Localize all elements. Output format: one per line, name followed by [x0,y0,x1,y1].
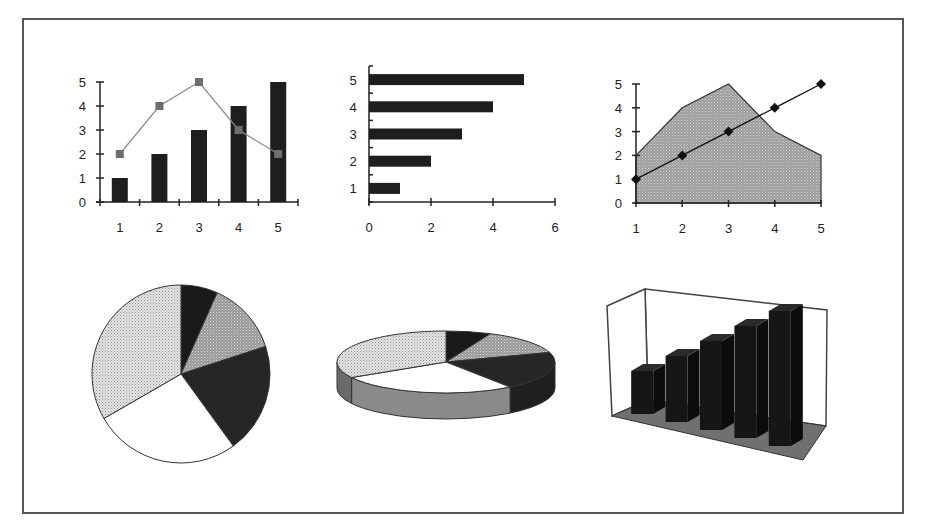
chart-gallery-canvas: 01234512345 123450246 01234512345 [0,0,926,531]
horizontal-bar [369,183,400,194]
y-tick-label: 5 [79,75,86,90]
square-marker [155,102,163,110]
square-marker [235,126,243,134]
y-tick-label: 4 [79,99,86,114]
column-3d-front [631,371,653,414]
column-3d-side [688,349,700,422]
x-tick-label: 5 [275,220,282,235]
square-marker [195,78,203,86]
column-3d-side [653,364,665,414]
column-3d-side [722,334,734,430]
square-marker [116,150,124,158]
y-tick-label: 1 [615,172,622,187]
pie-chart-3d [337,331,555,419]
x-tick-label: 1 [632,221,639,236]
x-tick-label: 4 [235,220,242,235]
y-tick-label: 3 [79,123,86,138]
y-tick-label: 4 [615,101,622,116]
y-tick-label: 0 [615,196,622,211]
y-tick-label: 2 [349,154,356,169]
column-3d-side [791,304,803,446]
diamond-marker [816,79,826,89]
column-bar [112,178,128,202]
column-bar [270,82,286,202]
x-tick-label: 3 [195,220,202,235]
combo-column-line-chart: 01234512345 [79,75,298,235]
column-3d-side [756,319,768,438]
diamond-marker [770,103,780,113]
x-tick-label: 6 [551,220,558,235]
y-tick-label: 3 [615,125,622,140]
x-tick-label: 0 [365,220,372,235]
column-bar [191,130,207,202]
x-tick-label: 2 [679,221,686,236]
column-bar [151,154,167,202]
column-3d-front [700,341,722,430]
column-3d-front [666,356,688,422]
y-tick-label: 1 [349,181,356,196]
square-marker [274,150,282,158]
area-line-chart: 01234512345 [615,77,826,236]
horizontal-bar-chart: 123450246 [349,66,558,235]
x-tick-label: 2 [156,220,163,235]
y-tick-label: 5 [349,73,356,88]
area-series [636,84,821,203]
pie-chart-2d [92,285,270,463]
y-tick-label: 3 [349,127,356,142]
horizontal-bar [369,129,462,140]
column-bar [231,106,247,202]
x-tick-label: 4 [771,221,778,236]
y-tick-label: 1 [79,171,86,186]
horizontal-bar [369,74,524,85]
y-tick-label: 4 [349,100,356,115]
x-tick-label: 2 [427,220,434,235]
y-tick-label: 0 [79,195,86,210]
x-tick-label: 5 [817,221,824,236]
x-tick-label: 3 [725,221,732,236]
y-tick-label: 5 [615,77,622,92]
x-tick-label: 4 [489,220,496,235]
column-chart-3d [607,289,827,460]
y-tick-label: 2 [615,148,622,163]
y-tick-label: 2 [79,147,86,162]
horizontal-bar [369,156,431,167]
column-3d-front [769,311,791,446]
x-tick-label: 1 [116,220,123,235]
horizontal-bar [369,101,493,112]
column-3d-front [734,326,756,438]
